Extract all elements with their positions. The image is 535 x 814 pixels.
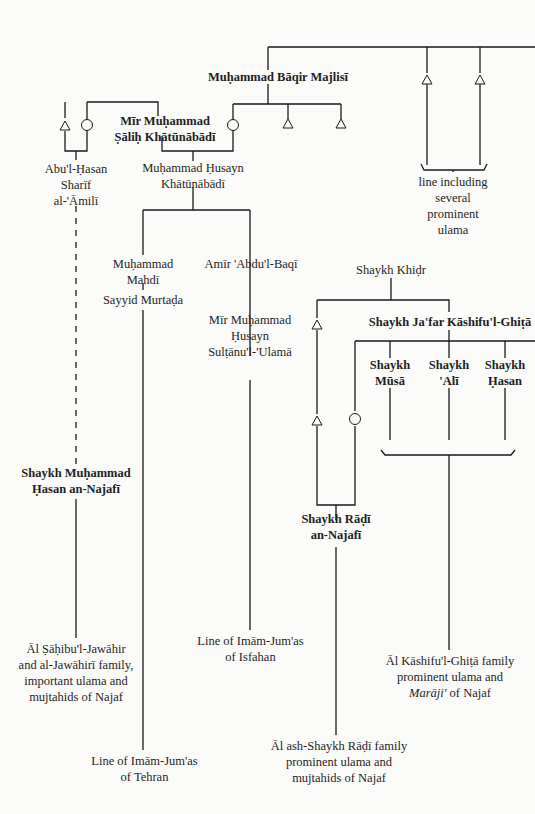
male-triangle-symbol	[422, 75, 432, 84]
node-abul-hasan: Abu'l-ḤasanSharīfal-'Āmilī	[36, 161, 116, 209]
node-muhammad-mahdi: MuḥammadMahdī	[108, 256, 178, 288]
node-mir-salih: Mīr MuḥammadṢāliḥ Khātūnābādī	[110, 113, 220, 145]
node-shaykh-hasan: ShaykhḤasan	[479, 357, 531, 389]
node-muhammad-hasan-najafi: Shaykh MuḥammadḤasan an-Najafī	[16, 465, 136, 497]
node-line-ulama: line includingseveralprominentulama	[413, 174, 493, 238]
node-majlisi: Muḥammad Bāqir Majlisī	[208, 69, 328, 85]
node-jawahiri-family: Āl Ṣāḥibu'l-Jawāhirand al-Jawāhirī famil…	[12, 641, 140, 705]
node-radi-najafi: Shaykh Rāḍīan-Najafī	[296, 511, 376, 543]
node-mir-sultanul-ulama: Mīr MuḥammadḤusaynSulṭānu'l-'Ulamā	[200, 312, 300, 360]
node-isfahan-line: Line of Imām-Jum'asof Isfahan	[188, 633, 313, 665]
node-sayyid-murtada: Sayyid Murtaḍa	[98, 292, 188, 308]
node-shaykh-ali: Shaykh'Alī	[423, 357, 475, 389]
node-shaykh-khidr: Shaykh Khiḍr	[351, 262, 431, 278]
node-kashif-family: Āl Kāshifu'l-Ghiṭā familyprominent ulama…	[382, 653, 518, 701]
female-circle-symbol	[82, 120, 93, 131]
node-shaykh-musa: ShaykhMūsā	[364, 357, 416, 389]
node-amir-abdul-baqi: Amīr 'Abdu'l-Baqī	[196, 256, 306, 272]
node-tehran-line: Line of Imām-Jum'asof Tehran	[82, 753, 207, 785]
node-muhammad-husayn: Muḥammad ḤusaynKhātūnābādī	[138, 160, 248, 192]
kashif-family-line3: Marāji' of Najaf	[382, 685, 518, 701]
node-radi-family: Āl ash-Shaykh Rāḍī familyprominent ulama…	[268, 738, 410, 786]
node-jafar-kashif: Shaykh Ja'far Kāshifu'l-Ghiṭā	[364, 314, 535, 330]
